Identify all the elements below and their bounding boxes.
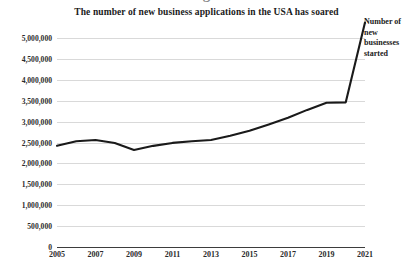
y-axis-tick-label: 1,000,000	[0, 201, 52, 210]
data-series-line	[57, 23, 365, 150]
line-chart: g The number of new business application…	[0, 0, 413, 272]
y-axis-tick-label: 1,500,000	[0, 180, 52, 189]
x-axis-tick-label: 2013	[191, 250, 231, 259]
data-line-layer	[0, 0, 413, 272]
annotation-line-2: businesses	[364, 38, 413, 49]
x-axis-tick-label: 2011	[153, 250, 193, 259]
y-axis-tick-label: 5,000,000	[0, 34, 52, 43]
y-axis-tick-label: 3,500,000	[0, 96, 52, 105]
x-axis-tick-label: 2005	[37, 250, 77, 259]
y-axis-tick-label: 500,000	[0, 222, 52, 231]
y-axis-tick-label: 3,000,000	[0, 117, 52, 126]
x-axis-tick-label: 2019	[307, 250, 347, 259]
annotation-line-0: Number of	[364, 17, 413, 28]
y-axis-tick-label: 2,500,000	[0, 138, 52, 147]
annotation-line-3: started	[364, 49, 413, 60]
x-axis-tick-label: 2015	[230, 250, 270, 259]
x-axis-tick-label: 2007	[76, 250, 116, 259]
series-annotation: Number of new businesses started	[364, 17, 413, 59]
y-axis-tick-label: 4,500,000	[0, 54, 52, 63]
annotation-line-1: new	[364, 28, 413, 39]
x-axis-tick-label: 2021	[345, 250, 385, 259]
y-axis-tick-label: 4,000,000	[0, 75, 52, 84]
y-axis-tick-label: 2,000,000	[0, 159, 52, 168]
x-axis-tick-label: 2017	[268, 250, 308, 259]
x-axis-tick-label: 2009	[114, 250, 154, 259]
